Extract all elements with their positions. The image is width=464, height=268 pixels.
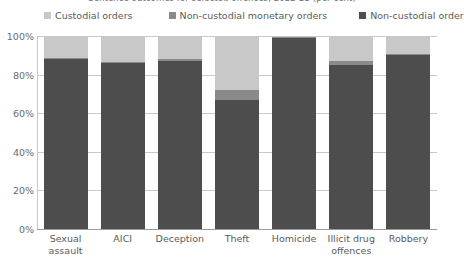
legend-swatch-icon [44, 12, 51, 19]
bar-segment[interactable] [329, 65, 373, 229]
legend-item-non-custodial-order[interactable]: Non-custodial order [359, 11, 464, 21]
y-axis-tick-label: 20% [0, 185, 34, 196]
bar-group[interactable] [329, 36, 373, 229]
legend-item-non-custodial-monetary-orders[interactable]: Non-custodial monetary orders [169, 11, 328, 21]
bar-segment[interactable] [44, 58, 88, 59]
bar-segment[interactable] [272, 38, 316, 229]
legend-label: Custodial orders [55, 11, 133, 21]
plot-area: 0%20%40%60%80%100% [37, 36, 437, 229]
bar-group[interactable] [44, 36, 88, 229]
bar-segment[interactable] [158, 36, 202, 59]
bar-segment[interactable] [215, 100, 259, 229]
bar-segment[interactable] [386, 55, 430, 229]
x-axis-category-label: Illicit drugoffences [323, 233, 380, 256]
bar-series-container [37, 36, 437, 229]
x-axis-label-line: assault [37, 245, 94, 257]
x-axis-label-line: Deception [151, 233, 208, 245]
legend-swatch-icon [169, 12, 176, 19]
bar-segment[interactable] [158, 61, 202, 229]
x-axis-label-line: Sexual [37, 233, 94, 245]
bar-segment[interactable] [101, 36, 145, 62]
chart-title: Sentence outcomes for selected offences,… [0, 0, 444, 3]
x-axis-category-label: AICI [94, 233, 151, 245]
bar-segment[interactable] [272, 37, 316, 38]
y-axis-tick-label: 60% [0, 108, 34, 119]
bar-segment[interactable] [44, 36, 88, 58]
x-axis-category-label: Theft [208, 233, 265, 245]
legend-label: Non-custodial order [370, 11, 464, 21]
bar-group[interactable] [215, 36, 259, 229]
legend-item-custodial-orders[interactable]: Custodial orders [44, 11, 133, 21]
bar-segment[interactable] [329, 36, 373, 61]
bar-segment[interactable] [215, 36, 259, 90]
legend-swatch-icon [359, 12, 366, 19]
x-axis-category-label: Sexualassault [37, 233, 94, 256]
x-axis-category-label: Homicide [266, 233, 323, 245]
bar-segment[interactable] [158, 59, 202, 61]
y-axis-tick-label: 40% [0, 146, 34, 157]
bar-segment[interactable] [215, 90, 259, 100]
x-axis-label-line: Robbery [380, 233, 437, 245]
gridline [37, 229, 437, 230]
x-axis-label-line: Illicit drug [323, 233, 380, 245]
legend-label: Non-custodial monetary orders [180, 11, 328, 21]
bar-segment[interactable] [101, 62, 145, 63]
chart-legend: Custodial ordersNon-custodial monetary o… [0, 9, 444, 22]
x-axis-label-line: offences [323, 245, 380, 257]
bar-segment[interactable] [44, 59, 88, 229]
bar-segment[interactable] [329, 61, 373, 65]
x-axis-category-label: Deception [151, 233, 208, 245]
bar-segment[interactable] [386, 54, 430, 55]
x-axis-label-line: AICI [94, 233, 151, 245]
bar-group[interactable] [158, 36, 202, 229]
bar-segment[interactable] [101, 63, 145, 229]
bar-segment[interactable] [272, 36, 316, 37]
x-axis-label-line: Homicide [266, 233, 323, 245]
y-axis-tick-label: 100% [0, 31, 34, 42]
bar-group[interactable] [101, 36, 145, 229]
y-axis-tick-label: 0% [0, 224, 34, 235]
x-axis-label-line: Theft [208, 233, 265, 245]
y-axis-tick-label: 80% [0, 69, 34, 80]
bar-group[interactable] [272, 36, 316, 229]
bar-segment[interactable] [386, 36, 430, 54]
x-axis-labels: SexualassaultAICIDeceptionTheftHomicideI… [37, 233, 437, 268]
x-axis-category-label: Robbery [380, 233, 437, 245]
bar-group[interactable] [386, 36, 430, 229]
